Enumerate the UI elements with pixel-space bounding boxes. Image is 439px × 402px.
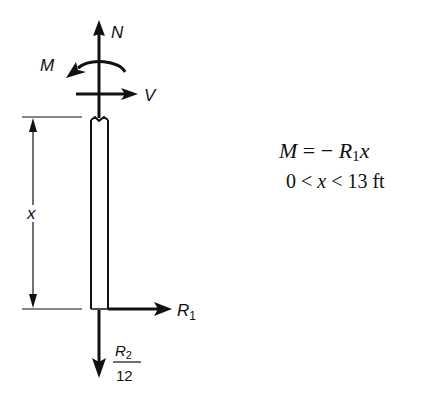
column-segment — [91, 117, 108, 309]
shear-force-label: V — [144, 86, 157, 105]
normal-force-label: N — [111, 23, 124, 42]
range-variable: x — [317, 170, 326, 192]
reaction-r1-arrow — [108, 302, 172, 316]
moment-equation: M = − R1x — [279, 138, 370, 165]
moment-label: M — [40, 56, 55, 75]
reaction-r1-label: R1 — [177, 301, 196, 323]
eq-r-symbol: R — [339, 138, 352, 163]
eq-r-subscript: 1 — [352, 147, 360, 164]
eq-x-symbol: x — [360, 138, 370, 163]
eq-moment-symbol: M — [279, 138, 297, 163]
dimension-x-label: x — [26, 204, 36, 223]
moment-arrow — [66, 62, 125, 78]
shear-force-arrow — [76, 88, 138, 100]
eq-operator: = − — [297, 138, 338, 163]
reaction-r2-fraction: R2 12 — [113, 342, 141, 384]
free-body-diagram: N M V x R1 R2 12 — [0, 0, 439, 402]
range-upper: < 13 ft — [326, 170, 385, 192]
svg-text:R2: R2 — [115, 342, 132, 361]
svg-text:12: 12 — [116, 367, 133, 384]
normal-force-arrow — [93, 20, 105, 118]
range-equation: 0 < x < 13 ft — [286, 170, 385, 193]
range-lower: 0 < — [286, 170, 317, 192]
reaction-r2-arrow — [92, 310, 106, 378]
